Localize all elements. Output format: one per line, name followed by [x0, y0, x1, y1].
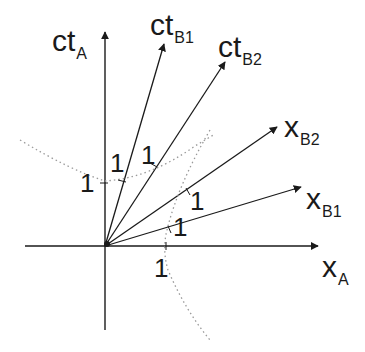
label-main: ct — [52, 24, 75, 57]
label-sub: A — [76, 45, 87, 62]
label-main: ct — [150, 8, 173, 41]
label-main: x — [322, 250, 337, 283]
label-main: x — [306, 182, 321, 215]
unit-mark-ct-a: 1 — [80, 170, 94, 196]
unit-mark-ct-b2: 1 — [141, 142, 155, 168]
label-sub: B1 — [322, 203, 342, 220]
label-main: x — [284, 110, 299, 143]
label-sub: A — [338, 271, 349, 288]
label-sub: B1 — [174, 29, 194, 46]
label-ct-a: ctA — [52, 26, 87, 56]
unit-mark-x-a: 1 — [154, 255, 168, 281]
label-main: ct — [218, 30, 241, 63]
unit-mark-x-b2: 1 — [190, 188, 204, 214]
label-x-b2: xB2 — [284, 112, 320, 142]
label-ct-b2: ctB2 — [218, 32, 262, 62]
label-sub: B2 — [300, 131, 320, 148]
label-sub: B2 — [242, 51, 262, 68]
origin-point — [104, 241, 110, 247]
unit-mark-x-b1: 1 — [173, 214, 187, 240]
label-x-a: xA — [322, 252, 349, 282]
label-x-b1: xB1 — [306, 184, 342, 214]
label-ct-b1: ctB1 — [150, 10, 194, 40]
unit-mark-ct-b1: 1 — [110, 150, 124, 176]
